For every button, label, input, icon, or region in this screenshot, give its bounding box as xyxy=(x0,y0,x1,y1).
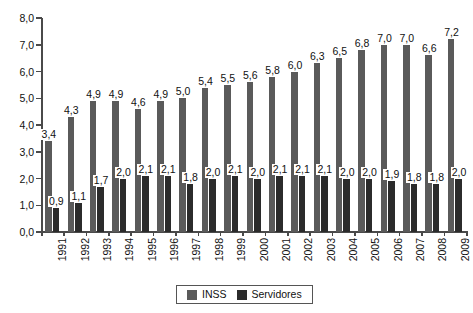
bar-inss[interactable] xyxy=(425,55,432,232)
x-axis-label: 2002 xyxy=(303,238,314,261)
plot-area: 3,40,94,31,14,91,74,92,04,62,14,92,15,01… xyxy=(41,18,466,232)
bar-value-label: 1,7 xyxy=(93,175,110,186)
bar-value-label: 6,0 xyxy=(286,60,303,71)
bar-serv[interactable] xyxy=(433,184,440,232)
bar-value-label: 2,0 xyxy=(451,167,468,178)
bar-serv[interactable] xyxy=(321,176,328,232)
y-axis-tick-label: 2,0 xyxy=(0,174,34,185)
bar-serv[interactable] xyxy=(232,176,239,232)
bar-value-label: 6,8 xyxy=(354,38,371,49)
y-axis-tick-label: 4,0 xyxy=(0,120,34,131)
bar-value-label: 2,1 xyxy=(294,164,311,175)
y-axis-tick-label: 0,0 xyxy=(0,227,34,238)
bar-value-label: 7,2 xyxy=(443,27,460,38)
bar-value-label: 7,0 xyxy=(376,33,393,44)
bar-serv[interactable] xyxy=(388,181,395,232)
y-axis-tick-label: 5,0 xyxy=(0,93,34,104)
x-axis-label: 2009 xyxy=(460,238,471,261)
bar-serv[interactable] xyxy=(411,184,418,232)
bar-serv[interactable] xyxy=(299,176,306,232)
bar-inss[interactable] xyxy=(179,98,186,232)
bar-inss[interactable] xyxy=(68,117,75,232)
bar-inss[interactable] xyxy=(202,88,209,232)
x-axis-label: 2007 xyxy=(415,238,426,261)
bar-serv[interactable] xyxy=(187,184,194,232)
bar-serv[interactable] xyxy=(165,176,172,232)
x-axis-label: 2000 xyxy=(259,238,270,261)
bar-serv[interactable] xyxy=(366,179,373,233)
bar-value-label: 7,0 xyxy=(398,33,415,44)
bar-serv[interactable] xyxy=(455,179,462,233)
bar-group: 4,92,0 xyxy=(112,18,126,232)
bar-inss[interactable] xyxy=(358,50,365,232)
bar-inss[interactable] xyxy=(314,63,321,232)
bar-group: 4,62,1 xyxy=(135,18,149,232)
bar-group: 5,62,0 xyxy=(247,18,261,232)
bar-serv[interactable] xyxy=(53,208,60,232)
bar-value-label: 1,9 xyxy=(383,169,400,180)
x-axis-tick xyxy=(466,231,468,236)
x-axis-label: 2006 xyxy=(393,238,404,261)
legend-item[interactable]: Servidores xyxy=(237,289,302,300)
bar-inss[interactable] xyxy=(448,39,455,232)
bar-value-label: 1,1 xyxy=(70,191,87,202)
bar-serv[interactable] xyxy=(142,176,149,232)
bar-value-label: 5,8 xyxy=(264,65,281,76)
x-axis-label: 1994 xyxy=(124,238,135,261)
legend-swatch-icon xyxy=(187,290,197,300)
bar-inss[interactable] xyxy=(247,82,254,232)
bar-inss[interactable] xyxy=(90,101,97,232)
bar-group: 3,40,9 xyxy=(45,18,59,232)
bar-serv[interactable] xyxy=(343,179,350,233)
bar-inss[interactable] xyxy=(269,77,276,232)
y-axis-tick-label: 8,0 xyxy=(0,13,34,24)
bar-inss[interactable] xyxy=(224,85,231,232)
bar-inss[interactable] xyxy=(381,45,388,232)
bar-inss[interactable] xyxy=(403,45,410,232)
chart-legend: INSSServidores xyxy=(176,285,313,304)
bar-value-label: 2,1 xyxy=(160,164,177,175)
bar-value-label: 6,3 xyxy=(309,51,326,62)
bar-serv[interactable] xyxy=(209,179,216,233)
x-axis-label: 2008 xyxy=(437,238,448,261)
y-axis-tick-label: 3,0 xyxy=(0,147,34,158)
bar-serv[interactable] xyxy=(276,176,283,232)
bar-value-label: 5,5 xyxy=(219,73,236,84)
x-axis-label: 1998 xyxy=(214,238,225,261)
x-axis-label: 2003 xyxy=(326,238,337,261)
y-axis-tick-label: 1,0 xyxy=(0,200,34,211)
legend-swatch-icon xyxy=(237,290,247,300)
bar-value-label: 2,0 xyxy=(205,167,222,178)
bar-group: 6,32,1 xyxy=(314,18,328,232)
bar-serv[interactable] xyxy=(75,203,82,232)
bar-group: 7,01,9 xyxy=(381,18,395,232)
bar-value-label: 4,9 xyxy=(108,89,125,100)
bar-serv[interactable] xyxy=(120,179,127,233)
legend-item[interactable]: INSS xyxy=(187,289,227,300)
bar-group: 6,82,0 xyxy=(358,18,372,232)
bar-value-label: 2,0 xyxy=(339,167,356,178)
bar-value-label: 5,0 xyxy=(175,86,192,97)
bar-group: 5,42,0 xyxy=(202,18,216,232)
bar-inss[interactable] xyxy=(45,141,52,232)
x-axis-label: 1996 xyxy=(169,238,180,261)
bar-chart: 0,01,02,03,04,05,06,07,08,0 3,40,94,31,1… xyxy=(0,0,473,313)
bar-value-label: 1,8 xyxy=(182,172,199,183)
bar-inss[interactable] xyxy=(291,72,298,233)
x-axis-label: 1995 xyxy=(147,238,158,261)
bar-serv[interactable] xyxy=(254,179,261,233)
bar-group: 5,82,1 xyxy=(269,18,283,232)
bar-value-label: 2,0 xyxy=(249,167,266,178)
bar-group: 5,01,8 xyxy=(179,18,193,232)
bar-value-label: 2,0 xyxy=(361,167,378,178)
y-axis-tick-label: 6,0 xyxy=(0,67,34,78)
bar-serv[interactable] xyxy=(97,187,104,232)
bar-value-label: 2,1 xyxy=(137,164,154,175)
bar-value-label: 5,6 xyxy=(242,70,259,81)
bar-value-label: 5,4 xyxy=(197,76,214,87)
bar-group: 4,31,1 xyxy=(68,18,82,232)
bar-value-label: 4,3 xyxy=(63,105,80,116)
bar-group: 5,52,1 xyxy=(224,18,238,232)
x-axis-label: 1992 xyxy=(80,238,91,261)
bar-inss[interactable] xyxy=(336,58,343,232)
